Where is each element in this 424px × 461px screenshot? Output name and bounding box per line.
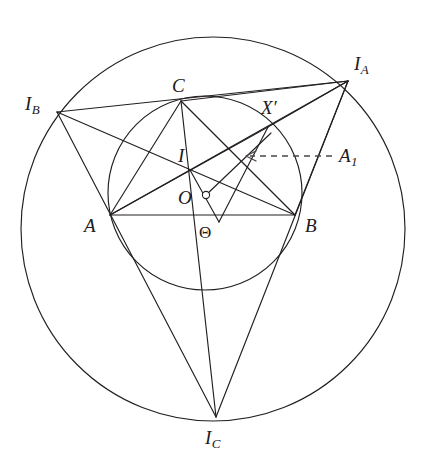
label-point-C-text: C (172, 75, 185, 96)
label-point-A1: A1 (339, 146, 358, 168)
label-point-IB: IB (25, 94, 40, 116)
label-point-IA-subscript: A (361, 62, 369, 77)
label-point-B-text: B (305, 215, 317, 236)
label-point-IC: IC (205, 428, 221, 450)
label-point-IB-subscript: B (32, 102, 40, 117)
label-point-A-text: A (84, 215, 96, 236)
label-point-O: O (178, 188, 192, 207)
label-point-theta: Θ (199, 224, 211, 241)
segment-IB-IC (57, 112, 216, 417)
segment-A-C (110, 101, 181, 215)
label-prime-mark: ′ (273, 97, 277, 118)
label-point-IA: IA (354, 54, 369, 76)
label-point-A: A (84, 216, 96, 235)
label-point-theta-text: Θ (199, 223, 211, 242)
label-point-IC-subscript: C (212, 436, 221, 451)
label-point-A1-subscript: 1 (351, 154, 358, 169)
segment-C-IC (181, 101, 216, 417)
label-point-X-prime-text: X (261, 97, 273, 118)
label-point-I: I (178, 146, 184, 165)
circumcircle (21, 37, 405, 421)
label-point-IB-text: I (25, 93, 31, 114)
label-point-B: B (305, 216, 317, 235)
label-point-IA-text: I (354, 53, 360, 74)
label-point-IC-text: I (205, 427, 211, 448)
segment-B-IB (57, 112, 295, 215)
label-point-X-prime: X′ (261, 98, 277, 117)
label-point-O-text: O (178, 187, 192, 208)
label-point-C: C (172, 76, 185, 95)
label-point-A1-text: A (339, 145, 351, 166)
right-angle-marker-icon (202, 191, 209, 198)
geometry-figure: A B C I O Θ X′ IA IB IC A1 (0, 0, 424, 461)
segment-C-B (181, 101, 295, 215)
label-point-I-text: I (178, 145, 184, 166)
